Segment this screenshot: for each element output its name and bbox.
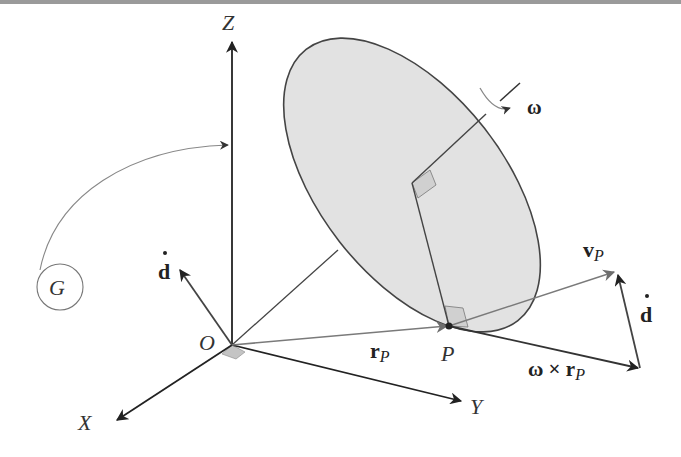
d-dot-right-label: d [640,302,652,327]
g-to-z-axis-arc [40,145,228,270]
d-dot-right-dot [645,294,649,298]
v-p-main: v [583,237,594,262]
x-axis [117,345,232,420]
body-g-label: G [49,275,65,300]
origin-label: O [199,330,215,355]
y-axis [232,345,461,401]
point-p-label: P [440,341,454,366]
o-to-disk-line [232,250,338,345]
d-dot-left-dot [163,251,167,255]
d-dot-left-label: d [158,259,170,284]
r-p-main: r [370,338,380,363]
rigid-body-kinematics-diagram: Z X Y O P G ω d d rP vP ω × rP [0,0,681,457]
x-axis-label: X [77,410,93,435]
d-dot-vector-right [618,275,640,368]
r-p-label: rP [370,338,390,365]
v-p-subscript: P [593,247,604,264]
omega-cross-subscript: P [574,366,585,383]
omega-cross-main: ω × r [528,357,575,381]
rigid-body-disk [234,0,591,377]
z-axis-label: Z [222,10,235,35]
omega-label: ω [527,96,542,118]
omega-rotation-arc [480,88,510,109]
y-axis-label: Y [470,394,485,419]
omega-cross-r-p-label: ω × rP [528,357,585,383]
r-p-subscript: P [379,348,390,365]
r-p-vector [232,326,447,345]
omega-axis-tick [500,83,520,101]
point-p-dot [446,323,453,330]
v-p-label: vP [583,237,604,264]
